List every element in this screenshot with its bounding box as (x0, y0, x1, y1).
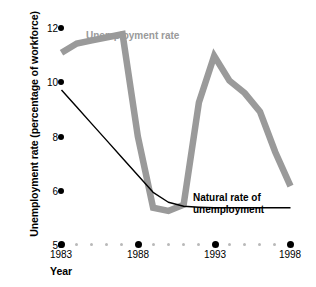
series-line-unemployment-rate (62, 34, 291, 211)
chart-figure: Unemployment rate (percentage of workfor… (0, 0, 316, 287)
plot-area (0, 0, 316, 287)
